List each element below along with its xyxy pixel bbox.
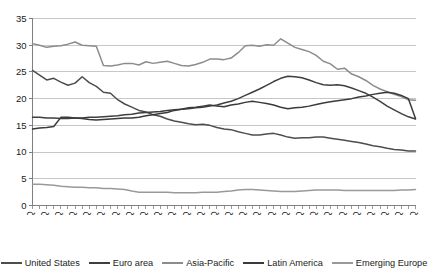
svg-text:2004-3-Q: 2004-3-Q [153,212,162,216]
legend-swatch-icon [162,262,183,264]
svg-text:2004-1-Q: 2004-1-Q [139,212,148,216]
chart-svg: 05101520253035 2000-1-Q2000-3-Q2001-1-Q2… [0,0,428,215]
y-axis-ticks: 05101520253035 [16,13,33,211]
svg-text:2009-1-Q: 2009-1-Q [281,212,290,216]
x-axis-labels: 2000-1-Q2000-3-Q2001-1-Q2001-3-Q2002-1-Q… [26,212,418,216]
svg-text:2001-1-Q: 2001-1-Q [54,212,63,216]
legend-item-label: Asia-Pacific [186,258,234,268]
svg-text:2011-1-Q: 2011-1-Q [338,212,347,216]
legend-item-asia-pacific[interactable]: Asia-Pacific [162,258,234,268]
svg-text:2001-3-Q: 2001-3-Q [68,212,77,216]
svg-text:30: 30 [16,40,27,51]
svg-text:0: 0 [21,200,26,211]
svg-text:2003-3-Q: 2003-3-Q [125,212,134,216]
legend-swatch-icon [243,262,264,264]
legend-item-label: Emerging Europe [356,258,428,268]
svg-text:2003-1-Q: 2003-1-Q [111,212,120,216]
legend-item-label: Latin America [267,258,323,268]
line-chart: 05101520253035 2000-1-Q2000-3-Q2001-1-Q2… [0,0,428,277]
plot-area: 05101520253035 2000-1-Q2000-3-Q2001-1-Q2… [0,0,428,215]
svg-text:35: 35 [16,13,27,24]
svg-text:2010-3-Q: 2010-3-Q [323,212,332,216]
x-axis-ticks [33,206,416,210]
svg-text:2000-3-Q: 2000-3-Q [40,212,49,216]
legend-item-united-states[interactable]: United States [1,258,80,268]
svg-text:2013-3-Q: 2013-3-Q [409,212,418,216]
svg-text:2010-1-Q: 2010-1-Q [309,212,318,216]
svg-text:2012-3-Q: 2012-3-Q [380,212,389,216]
legend-swatch-icon [332,262,353,264]
chart-legend: United StatesEuro areaAsia-PacificLatin … [0,252,428,274]
series-lines [33,39,416,193]
svg-text:2005-3-Q: 2005-3-Q [182,212,191,216]
legend-item-latin-america[interactable]: Latin America [243,258,323,268]
legend-item-label: Euro area [113,258,153,268]
svg-text:2007-1-Q: 2007-1-Q [224,212,233,216]
svg-text:10: 10 [16,146,27,157]
svg-text:2005-1-Q: 2005-1-Q [167,212,176,216]
svg-text:2011-3-Q: 2011-3-Q [352,212,361,216]
legend-item-emerging-europe[interactable]: Emerging Europe [332,258,428,268]
legend-item-label: United States [25,258,80,268]
legend-swatch-icon [89,262,110,264]
svg-text:2002-1-Q: 2002-1-Q [82,212,91,216]
svg-text:2008-1-Q: 2008-1-Q [252,212,261,216]
svg-text:2008-3-Q: 2008-3-Q [267,212,276,216]
series-line-emerging-europe [33,184,416,193]
svg-text:2002-3-Q: 2002-3-Q [96,212,105,216]
series-line-latin-america [33,92,416,129]
svg-text:5: 5 [21,173,26,184]
series-line-united-states [33,70,416,151]
svg-text:15: 15 [16,120,27,131]
legend-item-euro-area[interactable]: Euro area [89,258,153,268]
svg-text:20: 20 [16,93,27,104]
svg-text:2009-3-Q: 2009-3-Q [295,212,304,216]
svg-text:2006-3-Q: 2006-3-Q [210,212,219,216]
svg-text:2000-1-Q: 2000-1-Q [26,212,35,216]
svg-text:2013-1-Q: 2013-1-Q [394,212,403,216]
svg-text:2006-1-Q: 2006-1-Q [196,212,205,216]
svg-text:2007-3-Q: 2007-3-Q [238,212,247,216]
svg-text:2012-1-Q: 2012-1-Q [366,212,375,216]
svg-text:25: 25 [16,66,27,77]
legend-swatch-icon [1,262,22,264]
